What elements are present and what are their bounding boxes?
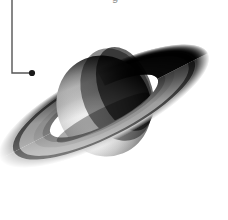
callout-marker-dot xyxy=(29,70,35,76)
saturn-figure: g xyxy=(0,0,228,220)
saturn-illustration xyxy=(0,0,228,220)
